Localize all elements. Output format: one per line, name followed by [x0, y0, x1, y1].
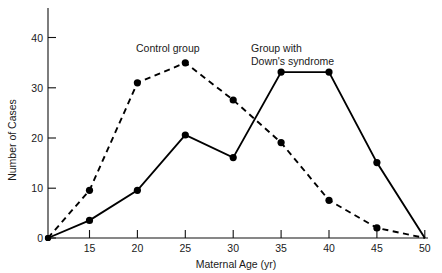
y-tick-marks [48, 38, 56, 239]
x-tick-labels: 15 20 25 30 35 40 45 50 [84, 242, 431, 254]
downs-syndrome-line [48, 72, 425, 238]
downs-point-45 [373, 159, 380, 166]
series-label-downs-line2: Down's syndrome [251, 55, 334, 67]
y-tick-label-0: 0 [37, 232, 43, 244]
axes-group [48, 8, 428, 238]
downs-point-30 [230, 154, 237, 161]
series-control-group [45, 59, 425, 241]
downs-syndrome-markers [45, 69, 381, 242]
control-group-markers [45, 59, 381, 241]
downs-point-35 [278, 69, 285, 76]
x-tick-label-40: 40 [323, 242, 335, 254]
series-label-control-group: Control group [136, 42, 200, 54]
x-tick-label-30: 30 [227, 242, 239, 254]
control-point-40 [325, 197, 332, 204]
x-axis-title: Maternal Age (yr) [196, 258, 277, 270]
y-tick-label-20: 20 [31, 132, 43, 144]
x-tick-marks [90, 230, 425, 238]
y-tick-label-30: 30 [31, 82, 43, 94]
series-downs-syndrome-group [45, 69, 425, 242]
downs-point-40 [325, 69, 332, 76]
y-tick-labels: 40 30 20 10 0 [31, 32, 43, 245]
y-axis-title: Number of Cases [6, 99, 18, 181]
chart-figure: 40 30 20 10 0 15 20 25 30 35 40 45 50 [0, 0, 442, 273]
series-label-downs-line1: Group with [251, 42, 302, 54]
downs-point-25 [182, 131, 189, 138]
control-point-20 [134, 79, 141, 86]
downs-point-20 [134, 187, 141, 194]
y-tick-label-10: 10 [31, 182, 43, 194]
x-tick-label-50: 50 [419, 242, 431, 254]
control-point-25 [182, 59, 189, 66]
y-tick-label-40: 40 [31, 32, 43, 44]
downs-point-15 [86, 217, 93, 224]
x-tick-label-35: 35 [275, 242, 287, 254]
control-point-45 [373, 224, 380, 231]
control-point-15 [86, 187, 93, 194]
x-tick-label-25: 25 [179, 242, 191, 254]
control-point-35 [278, 139, 285, 146]
x-tick-label-20: 20 [132, 242, 144, 254]
x-tick-label-45: 45 [371, 242, 383, 254]
x-tick-label-15: 15 [84, 242, 96, 254]
control-point-30 [230, 96, 237, 103]
line-chart-plot: 40 30 20 10 0 15 20 25 30 35 40 45 50 [0, 0, 442, 273]
downs-point-12.5 [45, 235, 51, 241]
